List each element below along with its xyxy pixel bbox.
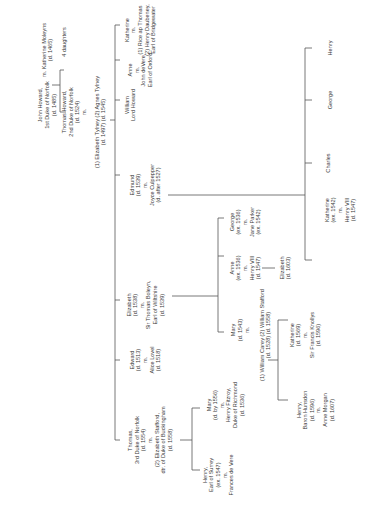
- person-text-line: (d. 1596): [315, 324, 321, 347]
- person-text-line: (d. 1607): [329, 399, 335, 422]
- person-text-line: George: [229, 213, 235, 232]
- person-node-john: John Howard,1st Duke of Norfolk(d. 1485): [37, 81, 56, 129]
- person-text-line: (ex. 1542): [330, 197, 336, 222]
- person-text-line: (d. 1543): [237, 319, 243, 342]
- person-text-line: (ex. 1536): [235, 209, 241, 234]
- person-text-line: Elizabeth: [279, 256, 285, 279]
- person-node-four_daughters: 4 daughters: [61, 27, 67, 57]
- person-text-line: (d. 1518): [155, 349, 161, 372]
- person-text-line: (d. 1536): [239, 394, 245, 417]
- person-text-line: (d. 1596): [309, 399, 315, 422]
- person-node-charles_son: Charles: [325, 153, 331, 172]
- person-text-line: Henry,: [296, 402, 302, 419]
- person-text-line: (d. 1547): [255, 257, 261, 280]
- person-text-line: Katherine: [324, 198, 330, 222]
- person-text-line: Edward: [129, 351, 135, 370]
- person-text-line: (d. 1538): [132, 294, 138, 317]
- person-text-line: Mary: [206, 399, 212, 412]
- person-text-line: Duke of Richmond: [232, 382, 238, 428]
- person-node-edward: Edward(d. 1513)m.Alice Lovel(d. 1518): [129, 346, 161, 373]
- person-text-line: (d. 1554): [140, 429, 146, 452]
- person-text-line: Henry: [327, 40, 333, 55]
- person-text-line: m.: [142, 356, 148, 363]
- person-node-henry_surrey: Henry,Earl of Surrey(ex. 1547)m.Frances …: [202, 454, 234, 495]
- person-text-line: 2nd Duke of Norfolk: [68, 87, 74, 137]
- person-text-line: m.: [315, 406, 321, 413]
- person-text-line: Charles: [325, 153, 331, 172]
- person-text-line: m.: [142, 181, 148, 188]
- person-text-line: (d. 1539): [135, 174, 141, 197]
- person-text-line: (d. after 1527): [155, 167, 161, 202]
- person-text-line: Anne Morgan: [322, 393, 328, 427]
- person-text-line: (d. 1497) (d. 1545): [100, 99, 106, 145]
- person-text-line: (d. 1603): [285, 257, 291, 280]
- person-text-line: Elizabeth: [126, 293, 132, 316]
- person-node-henry_son: Henry: [327, 40, 333, 55]
- person-text-line: Katherine: [289, 323, 295, 347]
- person-nodes: John Howard,1st Duke of Norfolk(d. 1485)…: [37, 4, 356, 496]
- person-text-line: Lord Howard: [130, 89, 136, 121]
- person-text-line: (d. 1524): [74, 101, 80, 124]
- person-text-line: Thomas Howard,: [61, 90, 67, 133]
- person-node-katherine_howard: Katherine(ex. 1542)m.Henry VIII(d. 1547): [324, 197, 356, 222]
- person-text-line: m.: [337, 206, 343, 213]
- person-text-line: dtr. of Duke of Buckingham: [160, 406, 166, 474]
- person-text-line: Katherine: [124, 18, 130, 42]
- person-text-line: (1) William Carey (2) William Stafford: [259, 289, 265, 381]
- family-tree-diagram: John Howard,1st Duke of Norfolk(d. 1485)…: [0, 0, 371, 511]
- person-text-line: m.: [130, 26, 136, 33]
- person-text-line: (d. 1558): [167, 429, 173, 452]
- person-text-line: 3rd Duke of Norfolk: [134, 416, 140, 464]
- person-text-line: Mary: [230, 324, 236, 337]
- person-text-line: (d. 1547): [350, 199, 356, 222]
- person-node-edmund: Edmund(d. 1539)m.Joyce Culpepper(d. afte…: [129, 164, 161, 206]
- person-text-line: m.: [81, 108, 87, 115]
- person-node-elizabeth_boleyn: Elizabeth(d. 1538)m.Sir Thomas Boleyn,Ea…: [126, 280, 165, 329]
- person-text-line: (1) Elizabeth Tylney (2) Agnes Tylney: [94, 76, 100, 168]
- person-text-line: 4 daughters: [61, 27, 67, 57]
- person-text-line: Anne: [229, 261, 235, 274]
- person-text-line: (2) Elizabeth Stafford,: [154, 413, 160, 467]
- person-text-line: George: [327, 91, 333, 110]
- person-text-line: Baron Hunsdon: [302, 391, 308, 430]
- person-text-line: (d. by 1556): [212, 390, 218, 420]
- person-node-anne_boleyn: Anne(ex. 1536)m.Henry VIII(d. 1547): [229, 255, 261, 280]
- person-text-line: Frances de Vere: [228, 454, 234, 495]
- person-node-elizabeth_i: Elizabeth(d. 1603): [279, 256, 292, 279]
- person-node-anne_veer: Annem.John deVere,Earl of Oxford: [127, 53, 153, 88]
- person-text-line: m.: [134, 66, 140, 73]
- person-text-line: (ex. 1547): [215, 462, 221, 487]
- person-text-line: Earl of Bridgewater: [150, 6, 156, 54]
- person-text-line: m.: [147, 436, 153, 443]
- person-node-mary_boleyn: Mary(d. 1543)m.: [230, 319, 249, 342]
- person-node-george_son: George: [327, 91, 333, 110]
- person-text-line: m. Katherine Moleyns: [41, 23, 47, 77]
- person-text-line: Anne: [127, 63, 133, 76]
- person-text-line: Earl of Surrey: [208, 458, 214, 492]
- person-text-line: Henry Fitzroy,: [225, 387, 231, 422]
- person-text-line: (ex. 1542): [255, 209, 261, 234]
- person-text-line: Sir Francis Knollys: [309, 312, 315, 359]
- person-text-line: (2) Henry Daubeney,: [144, 4, 150, 56]
- person-text-line: m.: [222, 471, 228, 478]
- person-text-line: Henry VIII: [344, 197, 350, 222]
- person-text-line: (d. 1539): [159, 294, 165, 317]
- person-text-line: (1) Rice ap Thomas: [137, 5, 143, 54]
- person-node-mary_fitzroy: Mary(d. by 1556)m.Henry Fitzroy,Duke of …: [206, 382, 245, 428]
- person-text-line: (d. 1465): [47, 39, 53, 62]
- person-text-line: Thomas,: [127, 429, 133, 451]
- person-text-line: 1st Duke of Norfolk: [44, 81, 50, 129]
- person-node-tylney_wives: (1) Elizabeth Tylney (2) Agnes Tylney(d.…: [94, 76, 107, 168]
- person-text-line: William: [124, 96, 130, 114]
- person-node-henry_hunsdon: Henry,Baron Hunsdon(d. 1596)m.Anne Morga…: [296, 391, 335, 430]
- person-node-katherine_d: Katherinem.(1) Rice ap Thomas(2) Henry D…: [124, 4, 156, 56]
- person-text-line: m.: [242, 218, 248, 225]
- person-text-line: Joyce Culpepper: [149, 164, 155, 206]
- person-text-line: Alice Lovel: [149, 346, 155, 373]
- person-node-thomas_3rd: Thomas,3rd Duke of Norfolk(d. 1554)m.(2)…: [127, 406, 173, 474]
- connector-lines: [52, 25, 312, 470]
- person-text-line: John Howard,: [37, 87, 43, 122]
- person-text-line: m.: [242, 264, 248, 271]
- person-text-line: m.: [302, 331, 308, 338]
- person-node-william: WilliamLord Howard: [124, 89, 137, 121]
